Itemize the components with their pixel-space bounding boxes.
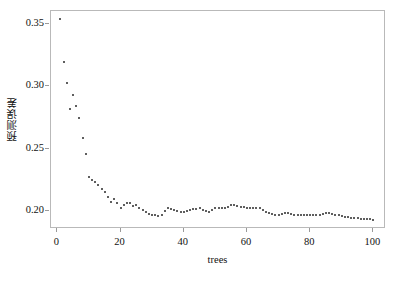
y-axis-tick-mark bbox=[45, 23, 49, 24]
data-point bbox=[189, 209, 191, 211]
data-point bbox=[164, 210, 166, 212]
data-point bbox=[306, 214, 308, 216]
data-point bbox=[75, 105, 77, 107]
data-point bbox=[281, 213, 283, 215]
data-point bbox=[243, 206, 245, 208]
data-point bbox=[183, 211, 185, 213]
data-point bbox=[221, 207, 223, 209]
y-axis-tick-mark bbox=[45, 85, 49, 86]
data-point bbox=[312, 214, 314, 216]
data-point bbox=[85, 153, 87, 155]
data-point bbox=[328, 212, 330, 214]
data-point bbox=[63, 61, 65, 63]
data-point bbox=[265, 211, 267, 213]
data-point bbox=[246, 207, 248, 209]
data-point bbox=[366, 218, 368, 220]
data-point bbox=[369, 218, 371, 220]
data-point bbox=[300, 214, 302, 216]
data-point bbox=[195, 208, 197, 210]
data-point bbox=[344, 216, 346, 218]
data-point bbox=[214, 207, 216, 209]
data-point bbox=[236, 205, 238, 207]
data-point bbox=[82, 137, 84, 139]
data-point bbox=[116, 202, 118, 204]
data-point bbox=[287, 212, 289, 214]
data-point bbox=[353, 217, 355, 219]
data-point bbox=[372, 219, 374, 221]
data-point bbox=[154, 214, 156, 216]
data-point bbox=[341, 215, 343, 217]
plot-area bbox=[50, 10, 385, 228]
data-point bbox=[227, 206, 229, 208]
y-axis-tick-mark bbox=[45, 148, 49, 149]
x-axis-tick-mark bbox=[246, 228, 247, 232]
data-point bbox=[284, 212, 286, 214]
data-point bbox=[255, 207, 257, 209]
data-point bbox=[334, 214, 336, 216]
data-point bbox=[290, 213, 292, 215]
data-point bbox=[208, 211, 210, 213]
y-axis-tick-mark bbox=[45, 210, 49, 211]
data-point bbox=[132, 205, 134, 207]
figure-canvas: 预测误差 0.200.250.300.35 020406080100 trees bbox=[0, 0, 400, 281]
data-point bbox=[126, 202, 128, 204]
data-point bbox=[303, 214, 305, 216]
data-point bbox=[293, 214, 295, 216]
data-point bbox=[268, 212, 270, 214]
data-point bbox=[173, 209, 175, 211]
data-point bbox=[104, 191, 106, 193]
data-point bbox=[278, 214, 280, 216]
y-axis-tick-label: 0.25 bbox=[26, 143, 44, 153]
data-point bbox=[347, 216, 349, 218]
data-point bbox=[199, 207, 201, 209]
data-point bbox=[325, 212, 327, 214]
data-point bbox=[151, 214, 153, 216]
data-point bbox=[129, 202, 131, 204]
data-point bbox=[357, 217, 359, 219]
data-point bbox=[249, 207, 251, 209]
data-point bbox=[240, 206, 242, 208]
x-axis-tick-label: 100 bbox=[364, 236, 380, 247]
data-point bbox=[91, 179, 93, 181]
x-axis-tick-label: 0 bbox=[54, 236, 59, 247]
data-point bbox=[161, 214, 163, 216]
data-point bbox=[97, 184, 99, 186]
data-point bbox=[297, 214, 299, 216]
data-point bbox=[252, 207, 254, 209]
data-point bbox=[192, 208, 194, 210]
data-point bbox=[363, 218, 365, 220]
data-point bbox=[145, 211, 147, 213]
data-point bbox=[186, 210, 188, 212]
data-point bbox=[262, 209, 264, 211]
data-point bbox=[120, 207, 122, 209]
x-axis-label: trees bbox=[50, 254, 385, 265]
data-point bbox=[167, 207, 169, 209]
data-point bbox=[113, 198, 115, 200]
data-point bbox=[72, 94, 74, 96]
data-point bbox=[319, 214, 321, 216]
data-point bbox=[338, 214, 340, 216]
data-point bbox=[315, 214, 317, 216]
data-point bbox=[360, 218, 362, 220]
y-axis-tick-label: 0.30 bbox=[26, 80, 44, 90]
y-axis-tick-label: 0.20 bbox=[26, 205, 44, 215]
data-point bbox=[230, 204, 232, 206]
data-point bbox=[101, 188, 103, 190]
data-point bbox=[88, 176, 90, 178]
data-point bbox=[123, 204, 125, 206]
x-axis-tick-label: 20 bbox=[114, 236, 125, 247]
x-axis-tick-label: 40 bbox=[177, 236, 188, 247]
data-point bbox=[274, 214, 276, 216]
x-axis-tick-mark bbox=[56, 228, 57, 232]
data-point bbox=[59, 18, 61, 20]
data-point bbox=[331, 213, 333, 215]
x-axis-tick-mark bbox=[120, 228, 121, 232]
data-point bbox=[94, 181, 96, 183]
x-axis-tick-label: 60 bbox=[241, 236, 252, 247]
data-point bbox=[157, 215, 159, 217]
data-point bbox=[110, 201, 112, 203]
data-point bbox=[78, 117, 80, 119]
data-point bbox=[69, 108, 71, 110]
data-point bbox=[176, 210, 178, 212]
data-point bbox=[148, 213, 150, 215]
